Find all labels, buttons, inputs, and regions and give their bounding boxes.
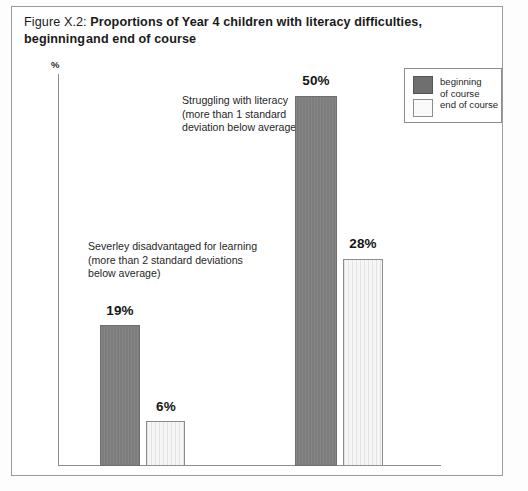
bar-label-group1-beginning: 19%: [92, 303, 148, 318]
figure-title-line2: and end of course: [86, 31, 196, 48]
legend-swatch-dark-icon: [413, 76, 433, 94]
annotation-struggling-with-literacy: Struggling with literacy (more than 1 st…: [182, 94, 312, 135]
bar-group1-end[interactable]: [146, 421, 185, 466]
y-axis: [58, 74, 59, 466]
bar-label-group1-end: 6%: [138, 399, 194, 414]
figure-number: Figure X.2:: [24, 15, 87, 29]
y-axis-unit-label: %: [51, 59, 59, 70]
bar-group1-beginning[interactable]: [100, 325, 140, 466]
bar-group2-end[interactable]: [343, 259, 383, 466]
figure-root: Figure X.2: Proportions of Year 4 childr…: [0, 0, 528, 491]
legend-item-end[interactable]: end of course: [413, 99, 498, 117]
legend-label-beginning: beginning of course: [440, 76, 482, 99]
bar-group2-beginning[interactable]: [295, 96, 337, 466]
annotation-severely-disadvantaged: Severley disadvantaged for learning (mor…: [88, 240, 293, 281]
legend: beginning of course end of course: [404, 68, 502, 123]
legend-label-end: end of course: [440, 99, 498, 111]
bar-label-group2-end: 28%: [335, 236, 391, 251]
legend-swatch-light-icon: [413, 99, 433, 117]
bar-label-group2-beginning: 50%: [288, 73, 344, 88]
legend-item-beginning[interactable]: beginning of course: [413, 76, 482, 99]
